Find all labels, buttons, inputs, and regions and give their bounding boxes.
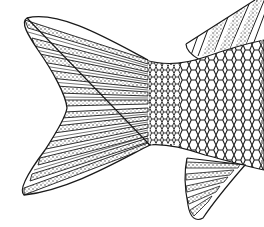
caudal-fin [0,0,160,210]
fish-tail-illustration: Fish tail line drawing [0,0,264,227]
